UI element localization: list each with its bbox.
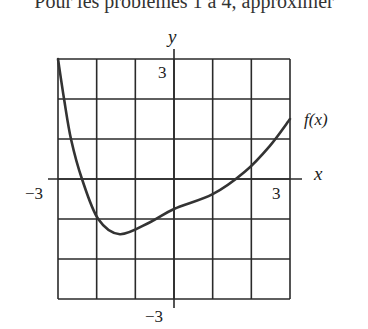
y-min-tick-label: −3	[145, 308, 163, 325]
y-max-tick-label: 3	[158, 64, 167, 81]
x-min-tick-label: −3	[25, 185, 43, 202]
x-axis-label: x	[314, 164, 322, 183]
curve-label: f(x)	[304, 111, 328, 128]
x-max-tick-label: 3	[272, 185, 281, 202]
function-graph	[0, 0, 368, 329]
y-axis-label: y	[168, 27, 176, 46]
